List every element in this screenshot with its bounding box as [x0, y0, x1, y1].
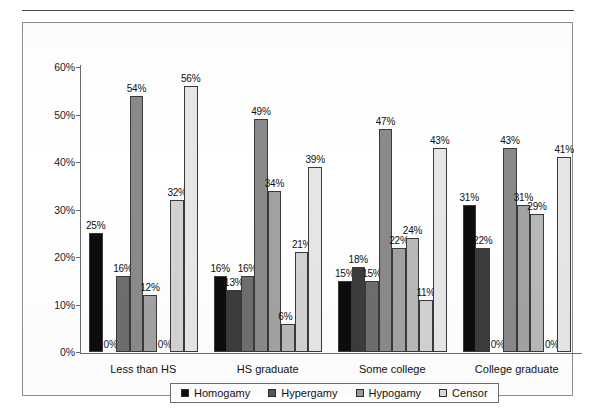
y-axis-tick-label: 40% [39, 156, 75, 168]
x-axis-category-label: HS graduate [206, 363, 331, 375]
bar[interactable] [241, 276, 255, 352]
bar-slot: 18% [352, 67, 366, 352]
legend-label: Homogamy [194, 387, 250, 399]
y-axis-tick: 30% [39, 210, 75, 222]
bar-slot: 15% [365, 67, 379, 352]
legend-item[interactable]: Hypogamy [356, 387, 422, 399]
y-axis-tick: 60% [39, 67, 75, 79]
legend-label: Hypergamy [281, 387, 337, 399]
bar[interactable] [433, 148, 447, 352]
bar[interactable] [295, 252, 309, 352]
bar-slot: 22% [476, 67, 490, 352]
legend-swatch-icon [356, 389, 364, 397]
legend-item[interactable]: Hypergamy [268, 387, 337, 399]
bar-slot: 11% [419, 67, 433, 352]
y-axis-tick-mark [76, 67, 80, 68]
bar-group-bars: 31%22%0%43%31%29%0%41% [463, 67, 572, 352]
x-axis-category-label: College graduate [455, 363, 580, 375]
bar[interactable] [281, 324, 295, 353]
bar-slot: 0% [544, 67, 558, 352]
bar[interactable] [227, 290, 241, 352]
y-axis-tick: 10% [39, 305, 75, 317]
bar-slot: 0% [157, 67, 171, 352]
bar[interactable] [143, 295, 157, 352]
bar[interactable] [130, 96, 144, 353]
bar[interactable] [517, 205, 531, 352]
bar-group: 31%22%0%43%31%29%0%41% [463, 67, 572, 352]
bar[interactable] [184, 86, 198, 352]
y-axis-tick-mark [76, 257, 80, 258]
bar-slot: 56% [184, 67, 198, 352]
legend-label: Hypogamy [369, 387, 422, 399]
bar-slot: 21% [295, 67, 309, 352]
bar-slot: 12% [143, 67, 157, 352]
y-axis-tick-mark [76, 210, 80, 211]
bar-slot: 39% [308, 67, 322, 352]
bar[interactable] [338, 281, 352, 352]
bar[interactable] [268, 191, 282, 353]
bar[interactable] [254, 119, 268, 352]
bar-group: 15%18%15%47%22%24%11%43% [338, 67, 447, 352]
legend-label: Censor [452, 387, 487, 399]
bar[interactable] [463, 205, 477, 352]
top-horizontal-rule [22, 10, 574, 11]
bar[interactable] [419, 300, 433, 352]
legend-swatch-icon [268, 389, 276, 397]
y-axis-tick: 20% [39, 257, 75, 269]
bar-slot: 41% [557, 67, 571, 352]
bar-slot: 31% [463, 67, 477, 352]
bar-slot: 54% [130, 67, 144, 352]
bar-slot: 43% [433, 67, 447, 352]
y-axis-tick-label: 60% [39, 61, 75, 73]
y-axis-tick-label: 30% [39, 204, 75, 216]
bar-group-bars: 16%13%16%49%34%6%21%39% [214, 67, 323, 352]
bar-slot: 47% [379, 67, 393, 352]
bar[interactable] [530, 214, 544, 352]
y-axis-tick: 0% [39, 352, 75, 364]
bar-slot: 29% [530, 67, 544, 352]
y-axis-tick-label: 20% [39, 251, 75, 263]
y-axis-tick-mark [76, 115, 80, 116]
bar-value-label: 56% [181, 74, 200, 84]
bar-slot: 6% [281, 67, 295, 352]
x-axis-category-label: Less than HS [81, 363, 206, 375]
legend-swatch-icon [439, 389, 447, 397]
bar-slot: 49% [254, 67, 268, 352]
legend-item[interactable]: Homogamy [181, 387, 250, 399]
y-axis-tick-mark [76, 352, 80, 353]
bar[interactable] [392, 248, 406, 353]
bar[interactable] [89, 233, 103, 352]
bar-slot: 0% [490, 67, 504, 352]
y-axis-tick-label: 0% [39, 346, 75, 358]
y-axis-tick-mark [76, 162, 80, 163]
bar[interactable] [365, 281, 379, 352]
y-axis-tick-mark [76, 305, 80, 306]
x-axis-line [80, 353, 582, 354]
bar-value-label: 39% [305, 155, 324, 165]
bar-slot: 0% [103, 67, 117, 352]
bar[interactable] [352, 267, 366, 353]
bar-slot: 22% [392, 67, 406, 352]
y-axis-tick: 50% [39, 115, 75, 127]
bar-value-label: 41% [554, 145, 573, 155]
bar[interactable] [476, 248, 490, 353]
bar[interactable] [170, 200, 184, 352]
bar-slot: 32% [170, 67, 184, 352]
bar[interactable] [503, 148, 517, 352]
bar-value-label: 43% [430, 136, 449, 146]
bar[interactable] [308, 167, 322, 352]
y-axis-tick-label: 50% [39, 109, 75, 121]
x-axis-category-label: Some college [330, 363, 455, 375]
y-axis-tick-label: 10% [39, 299, 75, 311]
bar-slot: 16% [116, 67, 130, 352]
legend-swatch-icon [181, 389, 189, 397]
legend-item[interactable]: Censor [439, 387, 487, 399]
bar-slot: 24% [406, 67, 420, 352]
bar-group: 16%13%16%49%34%6%21%39% [214, 67, 323, 352]
bar[interactable] [557, 157, 571, 352]
bar-group-bars: 15%18%15%47%22%24%11%43% [338, 67, 447, 352]
bar-slot: 13% [227, 67, 241, 352]
bar-slot: 16% [214, 67, 228, 352]
bar[interactable] [116, 276, 130, 352]
bar-slot: 25% [89, 67, 103, 352]
